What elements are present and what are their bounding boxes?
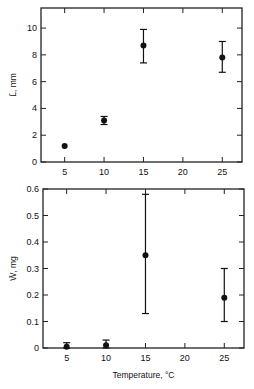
data-point <box>62 143 68 149</box>
x-axis-label: Temperature, °C <box>113 370 175 380</box>
y-tick-label: 0.1 <box>26 317 39 327</box>
data-point <box>142 252 148 258</box>
plot-frame <box>43 189 244 348</box>
data-point <box>140 42 146 48</box>
y-tick-label: 0.2 <box>26 290 39 300</box>
y-tick-label: 0 <box>32 157 37 167</box>
y-axis-label: W̄, mg <box>8 256 18 281</box>
x-tick-label: 5 <box>64 353 69 363</box>
x-tick-label: 5 <box>62 167 67 177</box>
y-axis-label: L̄, mm <box>8 73 18 97</box>
length-chart: 5101520250246810L̄, mm <box>8 8 242 177</box>
x-tick-label: 25 <box>219 353 229 363</box>
y-tick-label: 2 <box>32 130 37 140</box>
data-point <box>64 344 70 350</box>
data-point <box>101 117 107 123</box>
data-point <box>103 342 109 348</box>
y-tick-label: 0.5 <box>26 211 39 221</box>
y-tick-label: 0 <box>34 343 39 353</box>
y-tick-label: 8 <box>32 50 37 60</box>
y-tick-label: 0.6 <box>26 184 39 194</box>
data-point <box>219 55 225 61</box>
x-tick-label: 20 <box>178 167 188 177</box>
plot-frame <box>41 8 242 162</box>
chart-figure: 5101520250246810L̄, mm51015202500.10.20.… <box>0 0 254 389</box>
y-tick-label: 4 <box>32 103 37 113</box>
x-tick-label: 20 <box>180 353 190 363</box>
x-tick-label: 10 <box>99 167 109 177</box>
x-tick-label: 15 <box>140 353 150 363</box>
y-tick-label: 0.3 <box>26 264 39 274</box>
x-tick-label: 25 <box>217 167 227 177</box>
x-tick-label: 10 <box>101 353 111 363</box>
x-tick-label: 15 <box>138 167 148 177</box>
y-tick-label: 6 <box>32 77 37 87</box>
weight-chart: 51015202500.10.20.30.40.50.6W̄, mgTemper… <box>8 184 244 380</box>
data-point <box>221 295 227 301</box>
y-tick-label: 10 <box>27 23 37 33</box>
y-tick-label: 0.4 <box>26 237 39 247</box>
